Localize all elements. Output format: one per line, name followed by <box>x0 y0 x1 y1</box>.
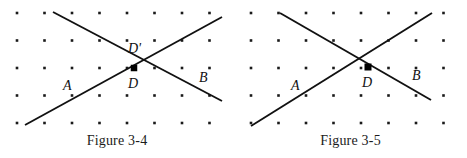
grid-dot <box>16 67 19 70</box>
grid-dot <box>153 122 156 125</box>
grid-dot <box>250 12 253 15</box>
grid-dot <box>16 122 19 125</box>
grid-dot <box>277 12 280 15</box>
figure-3-4-drawing: D'DAB <box>0 0 234 132</box>
grid-dot <box>208 39 211 42</box>
grid-dot <box>305 12 308 15</box>
grid-dot <box>126 94 129 97</box>
marker-group <box>131 65 138 72</box>
grid-dot <box>387 94 390 97</box>
grid-dot <box>43 12 46 15</box>
grid-dot <box>442 122 445 125</box>
grid-dot <box>208 12 211 15</box>
grid-dot <box>250 94 253 97</box>
grid-dot <box>181 122 184 125</box>
grid-dot <box>332 67 335 70</box>
grid-dot <box>332 39 335 42</box>
line-group <box>25 12 222 125</box>
grid-dot <box>387 12 390 15</box>
label-a: A <box>62 78 72 93</box>
grid-dot <box>305 39 308 42</box>
dot-grid <box>16 12 211 125</box>
grid-dot <box>442 39 445 42</box>
line-group <box>251 13 432 126</box>
point-d-marker <box>365 64 372 71</box>
grid-dot <box>360 67 363 70</box>
grid-dot <box>126 122 129 125</box>
grid-dot <box>415 94 418 97</box>
grid-dot <box>71 12 74 15</box>
ascending-line <box>251 13 432 126</box>
grid-dot <box>16 39 19 42</box>
grid-dot <box>277 94 280 97</box>
label-b: B <box>412 68 421 83</box>
grid-dot <box>43 39 46 42</box>
grid-dot <box>442 94 445 97</box>
grid-dot <box>16 94 19 97</box>
grid-dot <box>71 67 74 70</box>
grid-dot <box>415 39 418 42</box>
grid-dot <box>360 122 363 125</box>
marker-group <box>365 64 372 71</box>
grid-dot <box>153 12 156 15</box>
grid-dot <box>153 67 156 70</box>
grid-dot <box>415 12 418 15</box>
grid-dot <box>208 67 211 70</box>
grid-dot <box>43 94 46 97</box>
label-d: D <box>361 75 372 90</box>
label-d: D <box>127 76 138 91</box>
grid-dot <box>332 12 335 15</box>
figure-3-5-drawing: DAB <box>234 0 467 132</box>
ascending-line <box>25 17 222 125</box>
grid-dot <box>98 94 101 97</box>
grid-dot <box>71 94 74 97</box>
grid-dot <box>181 12 184 15</box>
grid-dot <box>43 122 46 125</box>
grid-dot <box>360 12 363 15</box>
grid-dot <box>98 39 101 42</box>
grid-dot <box>181 67 184 70</box>
figure-pair-container: D'DAB Figure 3-4 DAB Figure 3-5 <box>0 0 467 158</box>
grid-dot <box>360 94 363 97</box>
grid-dot <box>98 122 101 125</box>
grid-dot <box>208 122 211 125</box>
grid-dot <box>71 122 74 125</box>
grid-dot <box>305 67 308 70</box>
grid-dot <box>126 12 129 15</box>
label-d-prime: D' <box>127 41 142 56</box>
figure-3-5-caption: Figure 3-5 <box>234 132 467 150</box>
grid-dot <box>442 67 445 70</box>
grid-dot <box>360 39 363 42</box>
grid-dot <box>250 67 253 70</box>
grid-dot <box>153 94 156 97</box>
grid-dot <box>277 39 280 42</box>
grid-dot <box>442 12 445 15</box>
grid-dot <box>153 39 156 42</box>
grid-dot <box>250 122 253 125</box>
grid-dot <box>277 122 280 125</box>
grid-dot <box>16 12 19 15</box>
grid-dot <box>43 67 46 70</box>
label-a: A <box>290 78 300 93</box>
grid-dot <box>332 94 335 97</box>
grid-dot <box>71 39 74 42</box>
figure-3-5: DAB Figure 3-5 <box>234 0 467 158</box>
grid-dot <box>305 94 308 97</box>
grid-dot <box>332 122 335 125</box>
grid-dot <box>305 122 308 125</box>
figure-3-4: D'DAB Figure 3-4 <box>0 0 234 158</box>
descending-line <box>280 13 431 100</box>
grid-dot <box>277 67 280 70</box>
grid-dot <box>98 67 101 70</box>
grid-dot <box>250 39 253 42</box>
grid-dot <box>387 67 390 70</box>
point-d-marker <box>131 65 138 72</box>
label-b: B <box>199 70 208 85</box>
grid-dot <box>415 122 418 125</box>
figure-3-4-caption: Figure 3-4 <box>0 132 234 150</box>
grid-dot <box>181 94 184 97</box>
grid-dot <box>387 122 390 125</box>
grid-dot <box>98 12 101 15</box>
